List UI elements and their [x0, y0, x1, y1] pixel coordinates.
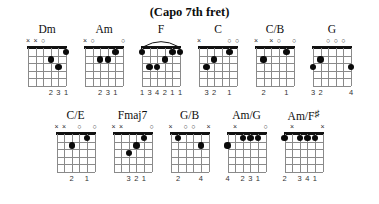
- fingering-number: 4: [197, 174, 205, 184]
- muted-string-icon: ×: [118, 123, 125, 131]
- string-line: [266, 134, 267, 172]
- finger-position-dot: [105, 56, 111, 62]
- string-markers: ×○○×: [171, 123, 209, 132]
- chord-diagram-am: Am×○○231: [76, 23, 133, 100]
- fret-line: [171, 172, 209, 173]
- string-line: [328, 48, 329, 86]
- fretboard-grid: [199, 46, 237, 86]
- fret-line: [28, 86, 66, 87]
- fretboard-grid: [142, 46, 180, 86]
- open-string-icon: ○: [340, 37, 347, 45]
- finger-position-dot: [133, 142, 139, 148]
- fret-line: [313, 71, 351, 72]
- fretboard-grid: [285, 132, 323, 172]
- nut-line: [141, 46, 181, 49]
- muted-string-icon: ×: [25, 37, 32, 45]
- open-string-icon: ○: [234, 37, 241, 45]
- finger-position-dot: [226, 49, 232, 55]
- finger-position-dot: [146, 64, 152, 70]
- finger-position-dot: [283, 49, 289, 55]
- fretboard-grid: [85, 46, 123, 86]
- fret-line: [285, 172, 323, 173]
- muted-string-icon: ×: [82, 37, 89, 45]
- open-string-icon: ○: [226, 37, 233, 45]
- fret-line: [28, 56, 66, 57]
- chord-row-top: Dm××○231Am×○○231F134211C×○○321C/B××○○21G…: [0, 23, 379, 100]
- finger-position-dot: [97, 56, 103, 62]
- chord-name-label: F: [158, 23, 164, 36]
- open-string-icon: ○: [275, 37, 282, 45]
- finger-position-dot: [112, 49, 118, 55]
- fret-line: [28, 71, 66, 72]
- fret-line: [85, 71, 123, 72]
- muted-string-icon: ×: [268, 37, 275, 45]
- muted-string-icon: ×: [61, 123, 68, 131]
- nut-line: [113, 132, 153, 135]
- string-line: [228, 134, 229, 172]
- string-line: [85, 48, 86, 86]
- chord-chart-sheet: (Capo 7th fret) Dm××○231Am×○○231F134211C…: [0, 0, 379, 204]
- string-line: [201, 134, 202, 172]
- fret-line: [57, 172, 95, 173]
- fret-line: [313, 86, 351, 87]
- muted-string-icon: ×: [196, 37, 203, 45]
- string-line: [336, 48, 337, 86]
- chord-name-label: G/B: [180, 109, 199, 122]
- string-line: [57, 134, 58, 172]
- muted-string-icon: ×: [32, 37, 39, 45]
- string-line: [186, 134, 187, 172]
- fret-line: [114, 149, 152, 150]
- string-line: [43, 48, 44, 86]
- open-string-icon: ○: [332, 37, 339, 45]
- chord-diagram-g: G○○○324: [304, 23, 361, 100]
- string-line: [256, 48, 257, 86]
- string-line: [108, 48, 109, 86]
- finger-position-dot: [255, 135, 261, 141]
- finger-position-dot: [203, 64, 209, 70]
- chord-diagram-am-g: Am/G×○4231: [218, 109, 275, 186]
- finger-position-dot: [48, 56, 54, 62]
- fret-line: [285, 157, 323, 158]
- string-line: [171, 134, 172, 172]
- finger-position-dot: [162, 56, 168, 62]
- fingering-number: 1: [176, 88, 184, 98]
- fret-line: [228, 172, 266, 173]
- string-line: [343, 48, 344, 86]
- chord-name-label: Am/G: [232, 109, 261, 122]
- fingering-number: 2: [317, 88, 325, 98]
- open-string-icon: ○: [291, 37, 298, 45]
- fingering-numbers: 231: [82, 88, 126, 100]
- fretboard-grid: [57, 132, 95, 172]
- fret-line: [114, 157, 152, 158]
- string-line: [36, 48, 37, 86]
- nut-line: [312, 46, 352, 49]
- fretboard-grid: [171, 132, 209, 172]
- string-line: [321, 48, 322, 86]
- fret-line: [57, 149, 95, 150]
- finger-position-dot: [312, 135, 318, 141]
- muted-string-icon: ×: [167, 123, 174, 131]
- fret-line: [171, 149, 209, 150]
- fret-line: [85, 78, 123, 79]
- chord-name-label: Am/F♯: [288, 109, 320, 122]
- string-markers: ×○○: [199, 37, 237, 46]
- string-markers: [142, 37, 180, 46]
- fingering-numbers: 231: [25, 88, 69, 100]
- open-string-icon: ○: [120, 37, 127, 45]
- fingering-numbers: 4231: [225, 174, 269, 186]
- fret-line: [171, 157, 209, 158]
- fret-line: [256, 78, 294, 79]
- fingering-number: 2: [174, 174, 182, 184]
- string-markers: ×○: [228, 123, 266, 132]
- finger-position-dot: [177, 49, 183, 55]
- nut-line: [170, 132, 210, 135]
- fret-line: [313, 78, 351, 79]
- fret-line: [199, 78, 237, 79]
- chord-name-label: G: [328, 23, 336, 36]
- fretboard-grid: [114, 132, 152, 172]
- fret-line: [228, 149, 266, 150]
- fret-line: [57, 142, 95, 143]
- fret-line: [285, 149, 323, 150]
- string-line: [51, 48, 52, 86]
- fingering-numbers: 324: [310, 88, 354, 100]
